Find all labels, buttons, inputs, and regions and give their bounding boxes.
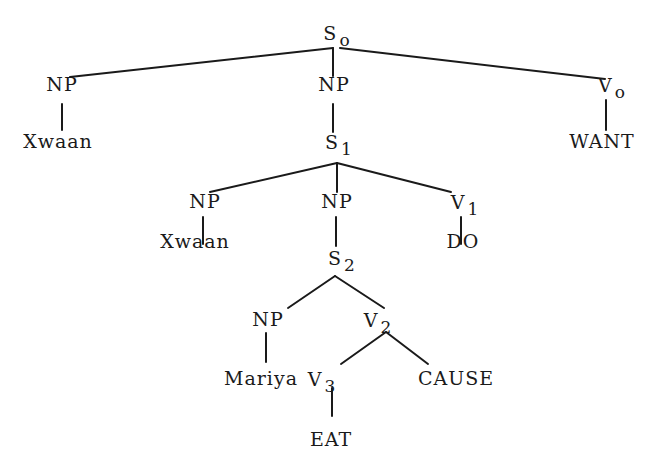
node-mariya: Mariya — [224, 369, 298, 388]
node-label: Mariya — [224, 367, 298, 389]
node-np-a: NP — [46, 75, 77, 94]
node-s1: S1 — [325, 133, 353, 158]
edge-s1-np_c — [210, 163, 337, 192]
node-label: NP — [252, 308, 283, 330]
node-eat: EAT — [310, 430, 352, 449]
node-label: V — [598, 74, 613, 96]
node-v3: V3 — [308, 370, 337, 395]
node-label: NP — [318, 73, 349, 95]
syntax-tree-diagram: SoNPXwaanNPS1VoWANTNPXwaanNPS2V1DONPV2Ma… — [0, 0, 662, 459]
node-s0: So — [323, 24, 350, 49]
node-np-c: NP — [189, 192, 220, 211]
node-label: S — [323, 22, 337, 44]
node-label: S — [328, 247, 342, 269]
node-np-e: NP — [252, 310, 283, 329]
edge-v2-cause — [386, 332, 428, 364]
node-np-d: NP — [321, 192, 352, 211]
node-label: Xwaan — [23, 130, 93, 152]
node-subscript: 1 — [341, 139, 353, 159]
edge-s1-v1 — [337, 163, 451, 192]
node-subscript: o — [615, 82, 626, 102]
node-v0: Vo — [598, 76, 626, 101]
node-xwaan-a: Xwaan — [23, 132, 93, 151]
node-label: V — [308, 368, 323, 390]
node-want: WANT — [569, 132, 635, 151]
node-v1: V1 — [451, 193, 480, 218]
node-label: Xwaan — [160, 230, 230, 252]
node-label: CAUSE — [418, 367, 494, 389]
edge-s2-np_e — [288, 276, 335, 308]
node-label: NP — [321, 190, 352, 212]
node-v2: V2 — [364, 311, 393, 336]
node-label: DO — [447, 230, 480, 252]
edge-s0-np_a — [70, 48, 333, 77]
edge-v2-v3 — [341, 332, 386, 364]
node-label: V — [364, 309, 379, 331]
node-label: V — [451, 191, 466, 213]
node-label: NP — [189, 190, 220, 212]
node-label: S — [325, 131, 339, 153]
node-subscript: 3 — [324, 376, 336, 396]
node-subscript: 2 — [344, 255, 356, 275]
node-label: EAT — [310, 428, 352, 450]
node-xwaan-b: Xwaan — [160, 232, 230, 251]
node-do: DO — [447, 232, 480, 251]
edge-s0-v0 — [340, 48, 605, 79]
node-subscript: o — [339, 30, 350, 50]
node-label: WANT — [569, 130, 635, 152]
node-label: NP — [46, 73, 77, 95]
node-s2: S2 — [328, 249, 356, 274]
node-cause: CAUSE — [418, 369, 494, 388]
node-np-b: NP — [318, 75, 349, 94]
node-subscript: 1 — [467, 199, 479, 219]
node-subscript: 2 — [380, 317, 392, 337]
edge-s2-v2 — [335, 276, 384, 308]
